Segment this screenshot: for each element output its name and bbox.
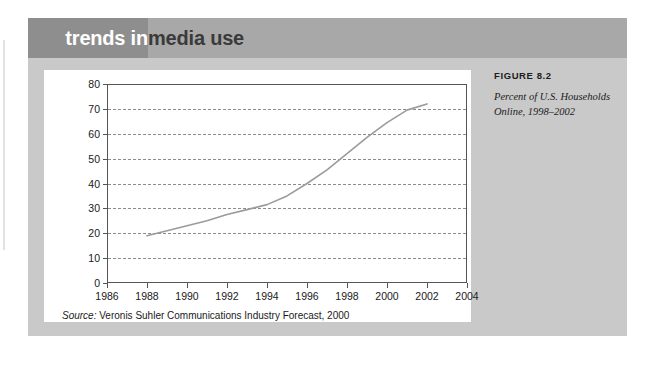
- y-axis-tick-label: 0: [72, 277, 100, 289]
- x-axis-tick-label: 1990: [175, 290, 198, 302]
- figure-card: trends in media use 01020304050607080 19…: [28, 18, 627, 336]
- x-axis-tick-label: 1986: [95, 290, 118, 302]
- y-axis-tick-label: 20: [72, 227, 100, 239]
- y-axis-tick-label: 30: [72, 202, 100, 214]
- x-axis-tick-mark: [427, 283, 428, 288]
- page-margin-rule: [3, 40, 5, 250]
- x-axis-tick-mark: [347, 283, 348, 288]
- y-axis-tick-label: 40: [72, 178, 100, 190]
- chart-area: 01020304050607080 1986198819901992199419…: [44, 70, 471, 322]
- y-axis-tick-label: 50: [72, 153, 100, 165]
- banner-title-secondary: media use: [148, 27, 244, 50]
- figure-caption-column: FIGURE 8.2 Percent of U.S. Households On…: [494, 70, 619, 322]
- chart-source-note: Source: Veronis Suhler Communications In…: [62, 310, 349, 321]
- figure-caption-text: Percent of U.S. Households Online, 1998–…: [494, 90, 619, 120]
- x-axis-tick-mark: [227, 283, 228, 288]
- source-label: Source:: [62, 310, 96, 321]
- x-axis-tick-label: 2000: [375, 290, 398, 302]
- chart-panel: 01020304050607080 1986198819901992199419…: [44, 70, 471, 322]
- x-axis-tick-mark: [387, 283, 388, 288]
- x-axis-tick-mark: [147, 283, 148, 288]
- series-line-chart: [107, 84, 467, 283]
- x-axis-tick-mark: [267, 283, 268, 288]
- x-axis-tick-label: 1994: [255, 290, 278, 302]
- figure-page: trends in media use 01020304050607080 19…: [0, 0, 657, 370]
- y-axis-tick-label: 10: [72, 252, 100, 264]
- banner-title-primary: trends in: [53, 27, 148, 50]
- y-axis-tick-label: 80: [72, 78, 100, 90]
- figure-banner: trends in media use: [28, 18, 627, 58]
- x-axis-tick-label: 2002: [415, 290, 438, 302]
- x-axis-tick-mark: [187, 283, 188, 288]
- x-axis-tick-mark: [307, 283, 308, 288]
- x-axis-tick-label: 1992: [215, 290, 238, 302]
- source-text: Veronis Suhler Communications Industry F…: [96, 310, 349, 321]
- x-axis-tick-label: 1998: [335, 290, 358, 302]
- banner-left-block: trends in: [28, 18, 148, 58]
- x-axis-tick-mark: [107, 283, 108, 288]
- y-axis-tick-label: 70: [72, 103, 100, 115]
- x-axis-tick-label: 2004: [455, 290, 478, 302]
- figure-number-label: FIGURE 8.2: [494, 70, 619, 81]
- series-line-households-online: [147, 104, 427, 236]
- banner-right-block: media use: [148, 18, 627, 58]
- x-axis-tick-label: 1996: [295, 290, 318, 302]
- y-axis-tick-label: 60: [72, 128, 100, 140]
- x-axis-tick-mark: [467, 283, 468, 288]
- x-axis-tick-label: 1988: [135, 290, 158, 302]
